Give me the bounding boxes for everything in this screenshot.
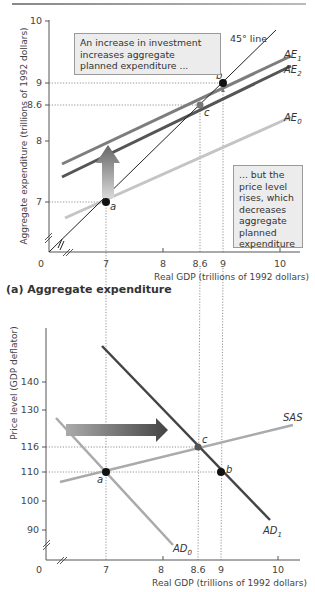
top-xtick-8: 8 xyxy=(160,258,166,269)
label-c-bottom: c xyxy=(202,434,208,445)
label-ad0: AD0 xyxy=(172,543,193,557)
panel-title-a: (a) Aggregate expenditure xyxy=(6,283,172,296)
bottom-xtick-10: 10 xyxy=(272,564,284,575)
label-45-line: 45° line xyxy=(230,33,267,44)
bottom-ytick-116: 116 xyxy=(21,441,39,452)
ad0-curve xyxy=(56,418,173,545)
label-c-top: c xyxy=(204,107,210,118)
label-b-bottom: b xyxy=(226,464,232,475)
figure-canvas: Aggregate expenditure (trillions of 1992… xyxy=(0,0,315,592)
point-b-bottom xyxy=(217,468,225,476)
shift-up-arrow-icon xyxy=(96,145,120,198)
top-ytick-9: 9 xyxy=(36,77,42,88)
point-c-top xyxy=(197,102,204,109)
top-guides xyxy=(49,83,223,560)
top-ytick-8: 8 xyxy=(36,135,42,146)
annotation-investment-increase: An increase in investment increases aggr… xyxy=(74,33,221,75)
label-ae0: AE0 xyxy=(283,112,302,126)
top-ytick-8.6: 8.6 xyxy=(27,99,42,110)
bottom-y-axis-label: Price level (GDP deflator) xyxy=(9,326,19,439)
top-ytick-7: 7 xyxy=(36,196,42,207)
top-xtick-0: 0 xyxy=(38,258,44,269)
label-ad1: AD1 xyxy=(262,525,282,539)
bottom-ytick-110: 110 xyxy=(21,466,39,477)
bottom-chart: Price level (GDP deflator) 140 130 116 1… xyxy=(9,326,307,588)
top-xtick-9: 9 xyxy=(220,258,226,269)
top-xtick-8.6: 8.6 xyxy=(192,258,207,269)
top-x-axis-label: Real GDP (trillions of 1992 dollars) xyxy=(154,272,309,282)
label-a-top: a xyxy=(110,201,116,212)
bottom-ytick-90: 90 xyxy=(27,524,39,535)
label-a-bottom: a xyxy=(97,474,103,485)
bottom-ytick-100: 100 xyxy=(21,495,39,506)
bottom-guides xyxy=(46,447,221,472)
ae2-curve xyxy=(62,66,291,177)
label-ae2: AE2 xyxy=(283,64,302,78)
annotation-price-level-rise: ... but the price level rises, which dec… xyxy=(233,165,303,248)
point-a-bottom xyxy=(102,468,110,476)
point-c-bottom xyxy=(195,444,202,451)
bottom-xtick-8: 8 xyxy=(158,564,164,575)
top-xtick-7: 7 xyxy=(103,258,109,269)
bottom-xtick-8.6: 8.6 xyxy=(190,564,205,575)
bottom-xtick-9: 9 xyxy=(218,564,224,575)
bottom-xtick-0: 0 xyxy=(36,564,42,575)
top-ytick-10: 10 xyxy=(30,15,42,26)
top-y-axis-label: Aggregate expenditure (trillions of 1992… xyxy=(19,27,29,244)
bottom-xtick-7: 7 xyxy=(103,564,109,575)
label-ae1: AE1 xyxy=(283,49,302,63)
bottom-x-axis-label: Real GDP (trillions of 1992 dollars) xyxy=(152,578,307,588)
bottom-ytick-140: 140 xyxy=(21,376,39,387)
shift-right-arrow-icon xyxy=(66,418,168,442)
label-sas: SAS xyxy=(283,412,303,423)
point-a-top xyxy=(102,198,110,206)
bottom-ytick-130: 130 xyxy=(21,404,39,415)
top-xtick-10: 10 xyxy=(274,258,286,269)
